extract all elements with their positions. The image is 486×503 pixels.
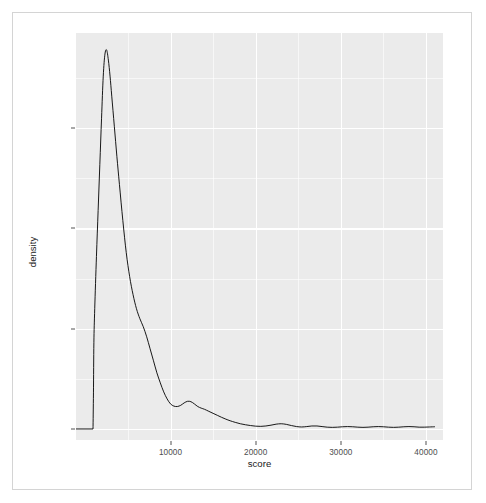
x-axis-title: score xyxy=(76,458,443,469)
x-axis-tick-label: 30000 xyxy=(329,448,352,457)
y-axis-tick-mark xyxy=(71,228,75,229)
x-axis-tick-label: 20000 xyxy=(244,448,267,457)
density-curve-path xyxy=(76,50,434,429)
y-axis-tick-mark xyxy=(71,428,75,429)
x-axis-tick-label: 10000 xyxy=(159,448,182,457)
x-axis-tick-mark xyxy=(340,441,341,445)
y-axis-tick-mark xyxy=(71,328,75,329)
x-axis-tick-mark xyxy=(255,441,256,445)
density-plot-figure: 0.000000.000050.000100.00015 10000200003… xyxy=(0,0,486,503)
density-curve-svg xyxy=(76,33,443,440)
x-axis-tick-label: 40000 xyxy=(414,448,437,457)
y-axis-title: density xyxy=(27,236,38,266)
plot-panel xyxy=(76,33,443,440)
y-axis-tick-mark xyxy=(71,128,75,129)
x-axis-tick-mark xyxy=(170,441,171,445)
x-axis-tick-mark xyxy=(425,441,426,445)
